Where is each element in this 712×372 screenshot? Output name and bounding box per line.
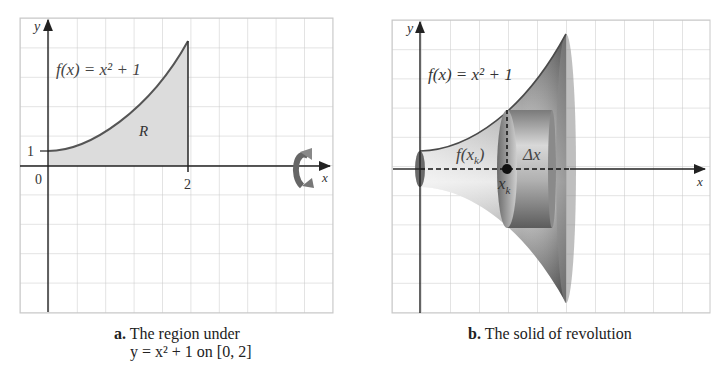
caption-a-letter: a. <box>114 325 126 342</box>
panel-b-radius-label: f(xk) <box>456 145 485 166</box>
panel-a-region-label: R <box>138 123 148 139</box>
caption-b-letter: b. <box>468 325 481 342</box>
panel-b-x-label: x <box>696 174 703 189</box>
panel-b-function-label: f(x) = x² + 1 <box>428 65 513 84</box>
caption-a-line2: y = x² + 1 on [0, 2] <box>114 343 252 360</box>
panel-a-y-label: y <box>32 19 41 34</box>
point-xk <box>502 164 512 174</box>
panel-b-y-label: y <box>405 21 414 36</box>
caption-b: b. The solid of revolution <box>468 325 632 343</box>
panel-a-tick-0: 0 <box>35 172 42 187</box>
panel-a-tick-2: 2 <box>184 177 191 192</box>
panel-a-tick-1: 1 <box>27 144 34 159</box>
caption-a-line1: The region under <box>130 325 240 342</box>
panel-b-thickness-label: Δx <box>522 145 541 164</box>
panel-a-x-label: x <box>321 170 328 185</box>
figure-canvas: y f(x) = x² + 1 R 1 0 2 x y f(x) = x² + … <box>0 0 712 372</box>
caption-a: a. The region under y = x² + 1 on [0, 2] <box>114 325 252 361</box>
panel-b <box>392 20 710 313</box>
caption-b-text: The solid of revolution <box>485 325 632 342</box>
panel-a-function-label: f(x) = x² + 1 <box>56 60 141 79</box>
